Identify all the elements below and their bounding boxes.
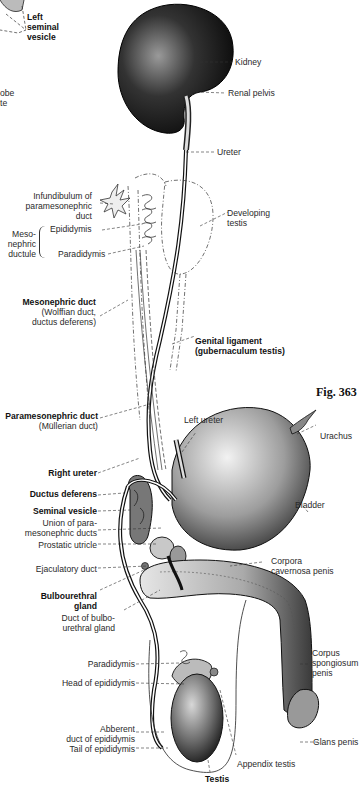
label-testis: Testis (205, 774, 229, 784)
kidney (118, 4, 233, 150)
label-line: seminal (27, 22, 59, 32)
label-ductus-deferens: Ductus deferens (2, 489, 97, 499)
label-corpora-cavernosa: Corpora cavernosa penis (271, 556, 334, 576)
label-paradidymis-lower: Paradidymis (2, 659, 135, 669)
figure-number: Fig. 363 (316, 385, 357, 400)
label-paramesonephric-duct: Paramesonephric duct (Müllerian duct) (2, 411, 98, 431)
label-line: duct (22, 211, 92, 221)
label-line: mesonephric ducts (2, 528, 97, 538)
label-infundibulum: Infundibulum of paramesonephric duct (22, 191, 92, 221)
label-line: Meso- (2, 229, 36, 239)
label-line: te (0, 98, 14, 108)
label-ejaculatory-duct: Ejaculatory duct (2, 564, 97, 574)
label-kidney: Kidney (235, 57, 261, 67)
label-ureter: Ureter (217, 147, 241, 157)
label-bladder: Bladder (295, 500, 325, 510)
label-line: Corpora (271, 556, 334, 566)
label-cut-lobe: obe te (0, 88, 14, 108)
label-line: penis (312, 668, 358, 678)
label-tail-epididymis: Tail of epididymis (2, 744, 135, 754)
label-appendix-testis: Appendix testis (237, 759, 295, 769)
label-line: duct of epididymis (2, 734, 135, 744)
label-prostatic-utricle: Prostatic utricle (2, 540, 97, 550)
label-line: (gubernaculum testis) (195, 346, 285, 356)
label-right-ureter: Right ureter (2, 468, 97, 478)
label-line: Corpus (312, 648, 358, 658)
label-mesonephric-duct: Mesonephric duct (Wolffian duct, ductus … (8, 297, 96, 327)
label-developing-testis: Developing testis (227, 208, 270, 228)
label-genital-ligament: Genital ligament (gubernaculum testis) (195, 336, 285, 356)
label-line: Paramesonephric duct (2, 411, 98, 421)
label-line: obe (0, 88, 14, 98)
left-seminal-vesicle-fragment (0, 0, 26, 33)
label-union-paramesonephric: Union of para- mesonephric ducts (2, 518, 97, 538)
label-mesonephric-ductule: Meso- nephric ductule (2, 229, 36, 259)
label-line: urethral gland (2, 623, 115, 633)
label-line: Union of para- (2, 518, 97, 528)
label-line: Mesonephric duct (8, 297, 96, 307)
label-left-ureter: Left ureter (184, 415, 223, 425)
label-line: (Müllerian duct) (2, 421, 98, 431)
label-line: Bulbourethral (2, 591, 97, 601)
anatomical-illustration (0, 0, 361, 788)
label-line: Developing (227, 208, 270, 218)
penis (140, 556, 319, 728)
label-corpus-spongiosum: Corpus spongiosum penis (312, 648, 358, 678)
label-line: paramesonephric (22, 201, 92, 211)
brace (39, 226, 46, 258)
label-epididymis: Epididymis (50, 224, 92, 234)
bladder (172, 408, 316, 551)
label-head-epididymis: Head of epididymis (2, 678, 135, 688)
label-line: (Wolffian duct, (8, 307, 96, 317)
label-line: spongiosum (312, 658, 358, 668)
label-line: testis (227, 218, 270, 228)
label-duct-bulbourethral: Duct of bulbo- urethral gland (2, 613, 115, 633)
label-line: nephric (2, 239, 36, 249)
label-urachus: Urachus (320, 431, 352, 441)
label-line: gland (2, 601, 97, 611)
label-paradidymis-upper: Paradidymis (58, 249, 105, 259)
label-line: ductus deferens) (8, 317, 96, 327)
label-bulbourethral-gland: Bulbourethral gland (2, 591, 97, 611)
label-line: ductule (2, 249, 36, 259)
label-line: Genital ligament (195, 336, 285, 346)
label-seminal-vesicle: Seminal vesicle (2, 506, 97, 516)
seminal-vesicle (128, 475, 176, 544)
label-abberent-duct: Abberent duct of epididymis (2, 724, 135, 744)
label-line: Abberent (2, 724, 135, 734)
label-line: vesicle (27, 32, 59, 42)
label-line: Infundibulum of (22, 191, 92, 201)
label-line: Left (27, 12, 59, 22)
label-line: cavernosa penis (271, 566, 334, 576)
label-line: Duct of bulbo- (2, 613, 115, 623)
label-left-seminal-vesicle: Left seminal vesicle (27, 12, 59, 42)
label-glans-penis: Glans penis (313, 737, 358, 747)
testis (171, 651, 223, 762)
label-renal-pelvis: Renal pelvis (228, 88, 275, 98)
